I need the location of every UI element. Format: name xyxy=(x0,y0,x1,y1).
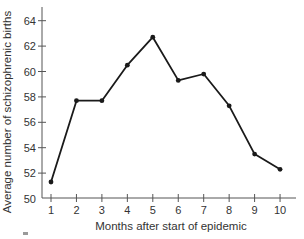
y-ticks: 5052545658606264 xyxy=(24,15,46,205)
line-chart: 5052545658606264 12345678910 Months afte… xyxy=(0,0,304,239)
x-tick-label: 1 xyxy=(48,204,54,216)
data-point xyxy=(252,152,257,157)
corner-mark xyxy=(23,232,28,235)
data-point xyxy=(100,98,105,103)
x-tick-label: 5 xyxy=(150,204,156,216)
x-tick-label: 8 xyxy=(226,204,232,216)
x-tick-label: 2 xyxy=(73,204,79,216)
data-point xyxy=(278,167,283,172)
data-point xyxy=(49,180,54,185)
data-point xyxy=(150,35,155,40)
data-point xyxy=(201,72,206,77)
data-point xyxy=(176,78,181,83)
x-tick-label: 9 xyxy=(252,204,258,216)
data-point xyxy=(74,98,79,103)
x-tick-label: 4 xyxy=(124,204,130,216)
x-tick-label: 3 xyxy=(99,204,105,216)
y-tick-label: 58 xyxy=(24,91,36,103)
x-tick-label: 7 xyxy=(201,204,207,216)
y-tick-label: 54 xyxy=(24,142,36,154)
y-tick-label: 60 xyxy=(24,66,36,78)
data-point xyxy=(227,103,232,108)
x-tick-label: 6 xyxy=(175,204,181,216)
series-line xyxy=(51,37,280,182)
y-tick-label: 52 xyxy=(24,167,36,179)
y-tick-label: 50 xyxy=(24,193,36,205)
x-tick-label: 10 xyxy=(274,204,286,216)
x-ticks: 12345678910 xyxy=(48,194,286,216)
plot-area xyxy=(49,35,283,185)
y-tick-label: 56 xyxy=(24,116,36,128)
y-axis: 5052545658606264 xyxy=(24,7,46,205)
x-axis: 12345678910 xyxy=(42,194,296,216)
y-tick-label: 62 xyxy=(24,40,36,52)
data-point xyxy=(125,63,130,68)
y-tick-label: 64 xyxy=(24,15,36,27)
x-axis-label: Months after start of epidemic xyxy=(95,220,247,232)
y-axis-label: Average number of schizophrenic births xyxy=(1,11,13,214)
